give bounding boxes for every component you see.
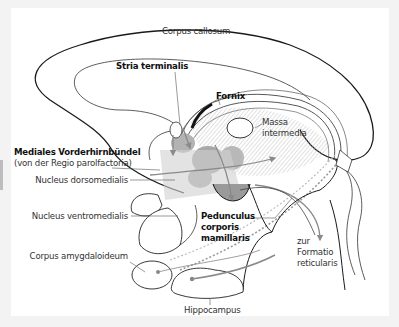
label-massa: Massa xyxy=(262,117,288,127)
label-hippocampus: Hippocampus xyxy=(184,305,241,315)
label-nucleus-dorsomedialis: Nucleus dorsomedialis xyxy=(14,175,128,185)
label-fornix: Fornix xyxy=(216,91,245,101)
label-pedunculus: Pedunculus xyxy=(201,211,255,221)
label-mediales-vorderhirnbuendel: Mediales Vorderhirnbündel xyxy=(14,147,124,157)
label-corpus-amygdaloideum: Corpus amygdaloideum xyxy=(14,251,128,261)
massa-intermedia-shape xyxy=(227,118,253,138)
label-zur: zur xyxy=(297,236,310,246)
label-nucleus-ventromedialis: Nucleus ventromedialis xyxy=(14,211,128,221)
hippocampus-shape xyxy=(171,268,243,298)
label-corporis: corporis xyxy=(201,222,239,232)
label-regio-parolfactoria: (von der Regio parolfactoria) xyxy=(14,158,128,168)
label-stria-terminalis: Stria terminalis xyxy=(116,61,188,71)
label-reticularis: reticularis xyxy=(297,258,337,268)
label-intermedia: intermedia xyxy=(262,128,307,138)
label-mamillaris: mamillaris xyxy=(201,233,250,243)
label-formatio: Formatio xyxy=(297,247,333,257)
amygdala-shape xyxy=(132,261,172,289)
label-corpus-callosum: Corpus callosum xyxy=(162,26,230,36)
